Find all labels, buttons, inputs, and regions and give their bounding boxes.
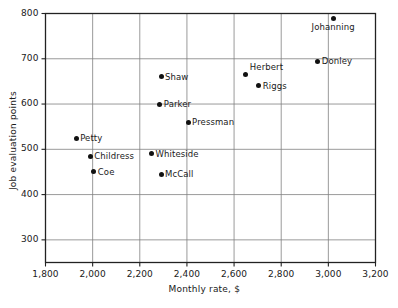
x-tick-label: 2,400 <box>165 269 209 279</box>
scatter-chart: 300400500600700800 1,8002,0002,2002,4002… <box>0 0 398 308</box>
data-point-label: Parker <box>164 99 191 109</box>
x-tick-label: 3,200 <box>354 269 398 279</box>
data-point <box>88 154 93 159</box>
x-tick-label: 2,600 <box>212 269 256 279</box>
y-tick-label: 800 <box>8 8 39 18</box>
data-point-label: Petty <box>80 133 102 143</box>
x-tick-label: 2,000 <box>71 269 115 279</box>
data-point-label: Pressman <box>192 117 234 127</box>
data-point <box>315 59 320 64</box>
plot-area <box>0 0 398 308</box>
x-tick-label: 3,000 <box>306 269 350 279</box>
data-point-label: Childress <box>94 151 134 161</box>
data-point-label: Riggs <box>263 81 287 91</box>
x-tick-label: 2,800 <box>259 269 303 279</box>
data-point-label: Shaw <box>165 72 188 82</box>
y-axis-title: Job evaluation points <box>8 91 18 190</box>
data-point <box>157 102 162 107</box>
data-point <box>186 120 191 125</box>
data-point <box>159 74 164 79</box>
data-point-label: Herbert <box>250 62 283 72</box>
data-point-label: Whiteside <box>156 149 199 159</box>
data-point-label: Donley <box>322 56 352 66</box>
data-point-label: Coe <box>98 167 115 177</box>
y-tick-label: 700 <box>8 53 39 63</box>
data-point <box>74 136 79 141</box>
y-tick-label: 400 <box>8 189 39 199</box>
data-point <box>331 16 336 21</box>
x-tick-label: 1,800 <box>24 269 68 279</box>
data-point-label: Johanning <box>312 22 355 32</box>
x-tick-label: 2,200 <box>118 269 162 279</box>
y-tick-label: 300 <box>8 234 39 244</box>
data-point-label: McCall <box>165 169 193 179</box>
x-axis-title: Monthly rate, $ <box>169 284 241 294</box>
data-point <box>159 172 164 177</box>
